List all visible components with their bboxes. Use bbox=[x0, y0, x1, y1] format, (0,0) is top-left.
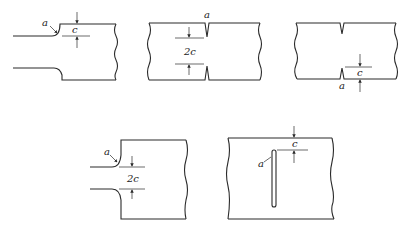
slot bbox=[272, 150, 276, 207]
dimension-label: 2c bbox=[183, 46, 196, 57]
panel-double-shoulder: a 2c bbox=[90, 140, 188, 219]
panel-internal-slot: a c bbox=[227, 126, 335, 219]
dimension-label: c bbox=[292, 138, 298, 149]
radius-label: a bbox=[42, 17, 48, 28]
panel-shoulder-single: a c bbox=[13, 12, 118, 80]
panel-double-edge-notch: a 2c bbox=[148, 9, 262, 80]
radius-label: a bbox=[104, 146, 110, 157]
radius-label: a bbox=[339, 80, 345, 91]
dimension-label: 2c bbox=[126, 173, 139, 184]
radius-label: a bbox=[258, 158, 264, 169]
dimension-label: c bbox=[357, 67, 363, 78]
dimension-label: c bbox=[72, 24, 78, 35]
notch-geometry-diagram: a c a 2c a c a 2c bbox=[0, 0, 411, 231]
panel-single-edge-notch: a c bbox=[295, 23, 398, 92]
radius-label: a bbox=[204, 9, 210, 20]
